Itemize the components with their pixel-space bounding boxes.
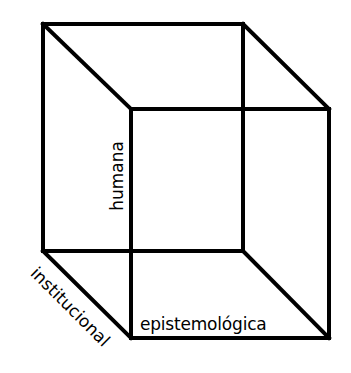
label-epistemologica: epistemológica [140,316,267,333]
back-face [43,24,243,251]
edge-top-left [43,24,131,109]
label-humana: humana [109,141,126,211]
cube-diagram: humana institucional epistemológica [0,0,351,373]
edge-top-right [243,24,329,109]
front-face [131,109,329,338]
